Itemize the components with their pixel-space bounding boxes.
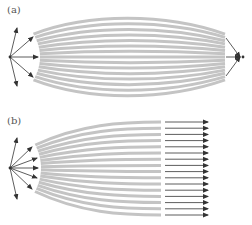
wavefront-band <box>40 60 225 62</box>
source-ray-arrow-icon <box>10 138 17 168</box>
source-ray-arrow-icon <box>10 168 37 178</box>
panel-b <box>9 122 208 215</box>
source-ray-arrow-icon <box>10 57 33 77</box>
wavefront-band <box>41 173 161 178</box>
lens-diagram <box>0 0 252 225</box>
wavefront-band <box>41 159 161 163</box>
source-ray-arrow-icon <box>10 168 32 189</box>
source-ray-arrow-icon <box>10 57 17 86</box>
converging-ray-arrow-icon <box>226 38 240 57</box>
wavefront-band <box>41 165 161 166</box>
source-ray-arrow-icon <box>10 168 17 199</box>
source-ray-arrow-icon <box>10 147 32 168</box>
converging-ray-arrow-icon <box>226 57 240 76</box>
source-ray-arrow-icon <box>10 28 17 57</box>
source-ray-arrow-icon <box>10 37 33 57</box>
panel-a <box>9 18 245 95</box>
focal-point-icon <box>242 56 245 59</box>
wavefront-band <box>41 170 161 172</box>
source-ray-arrow-icon <box>10 158 37 168</box>
wavefront-band <box>40 51 225 53</box>
